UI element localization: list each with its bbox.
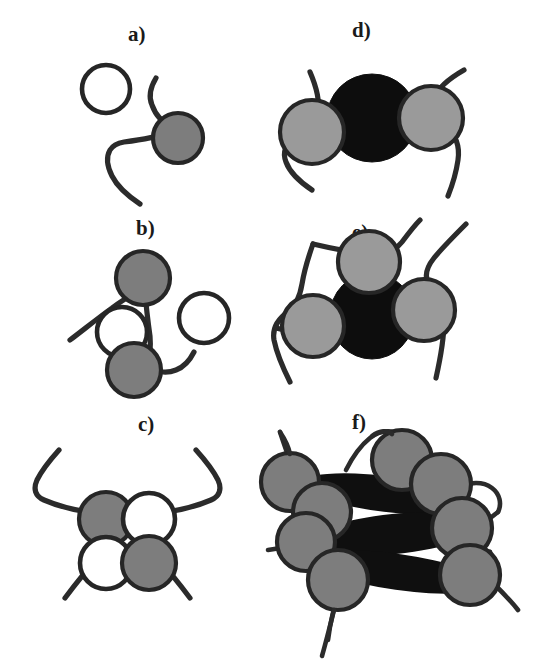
panel-c: c)	[0, 400, 268, 670]
bead-gray-a1	[153, 113, 203, 163]
bead-empty-a1	[82, 65, 130, 113]
polymer-chain-f-stub-bottom	[322, 610, 334, 656]
polymer-chain-c-upper-right	[167, 450, 220, 512]
bead-empty-b-free	[179, 293, 229, 343]
panel-b: b)	[0, 200, 268, 415]
panel-e: e)	[268, 200, 537, 415]
panel-f: f)	[268, 400, 537, 670]
polymer-chain-f-right-tail	[496, 586, 518, 610]
panel-d: d)	[268, 0, 537, 210]
bead-gray-d-right	[399, 86, 463, 150]
bead-gray-b-bottom	[107, 343, 161, 397]
panel-a-artwork	[0, 0, 268, 210]
panel-f-artwork	[268, 400, 537, 670]
panel-b-artwork	[0, 200, 268, 415]
bead-gray-f-7	[308, 550, 368, 610]
bead-gray-d-left	[280, 100, 344, 164]
panel-d-artwork	[268, 0, 537, 210]
figure-root: a) b) c)	[0, 0, 537, 670]
bead-gray-e-top	[338, 231, 400, 293]
panel-e-artwork	[268, 200, 537, 415]
bead-gray-e-right	[393, 279, 455, 341]
bead-gray-b-top	[116, 251, 170, 305]
bead-gray-f-8	[440, 545, 500, 605]
panel-c-artwork	[0, 400, 268, 670]
bead-gray-c-bottom-right	[122, 536, 176, 590]
bead-gray-e-left	[282, 295, 344, 357]
polymer-chain-c-upper-left	[35, 450, 88, 512]
panel-a: a)	[0, 0, 268, 210]
